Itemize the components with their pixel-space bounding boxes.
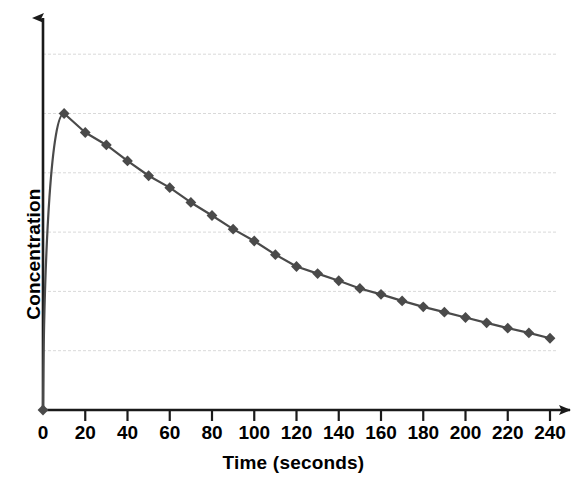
data-point-marker (270, 249, 281, 260)
x-tick-label: 60 (159, 422, 180, 444)
data-point-marker (481, 317, 492, 328)
x-tick-label: 200 (450, 422, 482, 444)
data-point-marker (418, 301, 429, 312)
x-tick-label: 220 (492, 422, 524, 444)
data-point-marker (354, 283, 365, 294)
x-tick-label: 140 (323, 422, 355, 444)
x-tick-label: 0 (38, 422, 49, 444)
data-point-marker (502, 323, 513, 334)
x-tick-label: 80 (201, 422, 222, 444)
x-tick-label: 240 (534, 422, 566, 444)
y-axis-title: Concentration (23, 124, 45, 384)
data-point-marker (545, 333, 556, 344)
data-point-marker (397, 295, 408, 306)
data-point-marker (291, 261, 302, 272)
data-point-marker (333, 275, 344, 286)
data-point-marker (312, 268, 323, 279)
data-point-markers (38, 108, 556, 415)
x-tick-label: 20 (75, 422, 96, 444)
chart-plot-area (0, 0, 587, 481)
gridline-group (43, 54, 556, 351)
x-tick-label: 40 (117, 422, 138, 444)
x-tick-label: 120 (281, 422, 313, 444)
data-point-marker (523, 328, 534, 339)
x-tick-group (85, 410, 550, 421)
data-point-marker (439, 307, 450, 318)
x-tick-label: 160 (365, 422, 397, 444)
data-point-marker (376, 289, 387, 300)
x-axis-title: Time (seconds) (0, 452, 587, 474)
data-point-marker (228, 224, 239, 235)
data-point-marker (249, 236, 260, 247)
chart-figure: 020406080100120140160180200220240 Time (… (0, 0, 587, 481)
data-point-marker (38, 405, 49, 416)
data-point-marker (207, 210, 218, 221)
x-tick-label: 180 (407, 422, 439, 444)
data-point-marker (460, 312, 471, 323)
x-tick-label: 100 (238, 422, 270, 444)
